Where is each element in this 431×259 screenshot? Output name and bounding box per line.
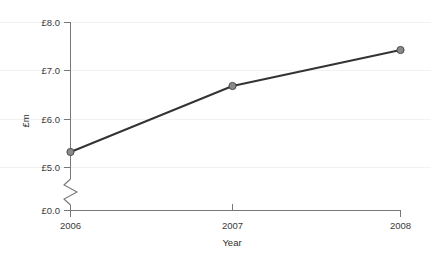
x-axis-title: Year	[222, 237, 241, 248]
y-tick-label-0: £0.0	[42, 205, 61, 216]
line-chart: £8.0 £7.0 £6.0 £5.0 £0.0 £m 2006 2007 20…	[0, 0, 431, 259]
y-axis: £8.0 £7.0 £6.0 £5.0 £0.0	[42, 17, 78, 216]
data-series	[67, 46, 404, 155]
y-axis-break-zigzag	[64, 179, 77, 205]
y-tick-label-7: £7.0	[42, 65, 61, 76]
y-tick-label-6: £6.0	[42, 114, 61, 125]
y-tick-label-5: £5.0	[42, 162, 61, 173]
x-tick-label-2006: 2006	[60, 220, 81, 231]
data-point-2007[interactable]	[229, 82, 236, 89]
gridlines	[0, 23, 431, 168]
series-line	[71, 50, 401, 152]
y-axis-title: £m	[20, 114, 31, 127]
x-tick-label-2008: 2008	[390, 220, 411, 231]
y-tick-label-8: £8.0	[42, 17, 61, 28]
data-point-2006[interactable]	[67, 148, 74, 155]
data-point-2008[interactable]	[397, 46, 404, 53]
chart-canvas: £8.0 £7.0 £6.0 £5.0 £0.0 £m 2006 2007 20…	[0, 0, 431, 259]
x-axis: 2006 2007 2008	[60, 204, 411, 231]
x-tick-label-2007: 2007	[222, 220, 243, 231]
